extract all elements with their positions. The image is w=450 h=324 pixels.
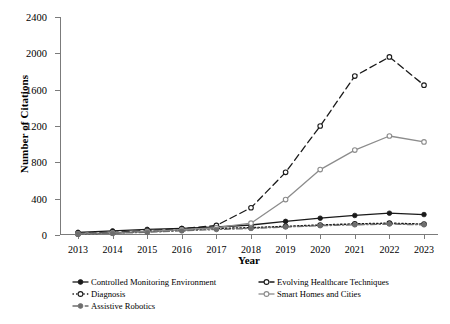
legend-marker-icon bbox=[258, 288, 275, 300]
data-point bbox=[353, 148, 358, 153]
legend-item[interactable]: Evolving Healthcare Techniques bbox=[258, 276, 448, 288]
x-tick: 2018 bbox=[251, 235, 252, 239]
legend-marker-icon bbox=[258, 276, 275, 288]
data-point bbox=[110, 231, 115, 236]
legend-item[interactable]: Diagnosis bbox=[72, 288, 262, 300]
legend-marker-icon bbox=[72, 276, 89, 288]
data-point bbox=[145, 230, 150, 235]
legend-column-right: Evolving Healthcare TechniquesSmart Home… bbox=[258, 276, 448, 300]
y-tick-label: 1200 bbox=[26, 121, 47, 132]
legend-marker-icon bbox=[72, 300, 89, 312]
series-1 bbox=[76, 55, 427, 236]
data-point bbox=[318, 167, 323, 172]
x-tick: 2017 bbox=[216, 235, 217, 239]
legend-marker-icon bbox=[72, 288, 89, 300]
data-point bbox=[318, 216, 323, 221]
legend-item[interactable]: Assistive Robotics bbox=[72, 300, 262, 312]
data-point bbox=[283, 219, 288, 224]
series-3 bbox=[76, 134, 427, 236]
series-line bbox=[78, 136, 424, 234]
series-layer bbox=[60, 17, 438, 235]
data-point bbox=[214, 227, 219, 232]
x-tick: 2015 bbox=[147, 235, 148, 239]
data-point bbox=[353, 213, 358, 218]
data-point bbox=[387, 211, 392, 216]
legend-label: Evolving Healthcare Techniques bbox=[277, 276, 389, 288]
x-tick: 2016 bbox=[182, 235, 183, 239]
data-point bbox=[283, 170, 288, 175]
data-point bbox=[422, 83, 427, 88]
data-point bbox=[283, 197, 288, 202]
data-point bbox=[422, 212, 427, 217]
data-point bbox=[249, 221, 254, 226]
y-tick-label: 800 bbox=[31, 157, 47, 168]
plot-area: 04008001200160020002400 2013201420152016… bbox=[60, 17, 438, 235]
data-point bbox=[318, 124, 323, 129]
data-point bbox=[387, 134, 392, 139]
y-tick-label: 0 bbox=[42, 230, 47, 241]
data-point bbox=[76, 232, 81, 237]
legend-label: Diagnosis bbox=[91, 288, 125, 300]
x-tick: 2020 bbox=[320, 235, 321, 239]
data-point bbox=[422, 223, 427, 228]
data-point bbox=[422, 140, 427, 145]
legend-label: Smart Homes and Cities bbox=[277, 288, 361, 300]
y-tick-label: 2400 bbox=[26, 12, 47, 23]
y-tick-label: 1600 bbox=[26, 84, 47, 95]
legend-item[interactable]: Smart Homes and Cities bbox=[258, 288, 448, 300]
data-point bbox=[353, 223, 358, 228]
x-tick: 2019 bbox=[286, 235, 287, 239]
data-point bbox=[387, 55, 392, 60]
data-point bbox=[353, 74, 358, 79]
data-point bbox=[318, 223, 323, 228]
legend-column-left: Controlled Monitoring EnvironmentDiagnos… bbox=[72, 276, 262, 313]
y-tick-label: 2000 bbox=[26, 48, 47, 59]
legend-item[interactable]: Controlled Monitoring Environment bbox=[72, 276, 262, 288]
x-tick: 2023 bbox=[424, 235, 425, 239]
x-tick: 2022 bbox=[389, 235, 390, 239]
data-point bbox=[283, 225, 288, 230]
x-tick: 2021 bbox=[355, 235, 356, 239]
data-point bbox=[249, 226, 254, 231]
data-point bbox=[180, 229, 185, 234]
data-point bbox=[249, 205, 254, 210]
y-tick-label: 400 bbox=[31, 193, 47, 204]
citations-line-chart: Number of Citations 04008001200160020002… bbox=[0, 0, 450, 324]
legend-label: Controlled Monitoring Environment bbox=[91, 276, 216, 288]
y-tick: 0 bbox=[55, 235, 60, 236]
legend-label: Assistive Robotics bbox=[91, 300, 155, 312]
data-point bbox=[387, 222, 392, 227]
x-axis-title: Year bbox=[60, 254, 438, 266]
